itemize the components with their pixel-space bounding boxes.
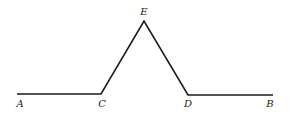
point-label-b: B — [265, 98, 273, 109]
point-label-c: C — [98, 98, 106, 109]
point-label-e: E — [139, 6, 148, 17]
point-label-a: A — [15, 98, 23, 109]
path-acedb — [17, 21, 273, 95]
geometry-diagram: A C E D B — [0, 0, 293, 123]
point-label-d: D — [183, 98, 192, 109]
